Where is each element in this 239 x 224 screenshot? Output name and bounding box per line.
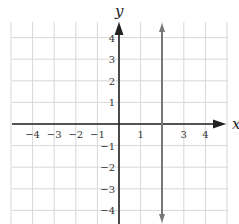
y-tick-label: 4 [109,33,115,44]
x-axis-label: x [232,115,239,133]
vertical-line-x-2 [159,23,165,223]
y-axis-label: y [114,2,124,20]
coordinate-plane: y x −4−3−2−1134 4321−1−2−3−4 [0,0,239,224]
y-tick-label: −2 [100,162,115,173]
y-tick-label: 3 [109,54,115,65]
y-axis-arrow-icon [115,22,124,35]
y-tick-label: 1 [109,97,115,108]
y-tick-label: 2 [109,76,115,87]
y-tick-label: −4 [100,205,115,216]
x-tick-labels: −4−3−2−1134 [25,129,208,140]
up-arrow-icon [159,23,165,32]
x-tick-label: 1 [137,129,143,140]
x-tick-label: −3 [47,129,62,140]
x-tick-label: 3 [181,129,187,140]
down-arrow-icon [159,214,165,223]
x-tick-label: −1 [90,129,105,140]
y-tick-label: −1 [100,141,115,152]
x-axis-arrow-icon [213,120,226,129]
x-tick-label: −4 [25,129,40,140]
x-tick-label: 4 [202,129,208,140]
y-axis [115,22,124,224]
y-tick-label: −3 [100,184,115,195]
x-tick-label: −2 [68,129,83,140]
